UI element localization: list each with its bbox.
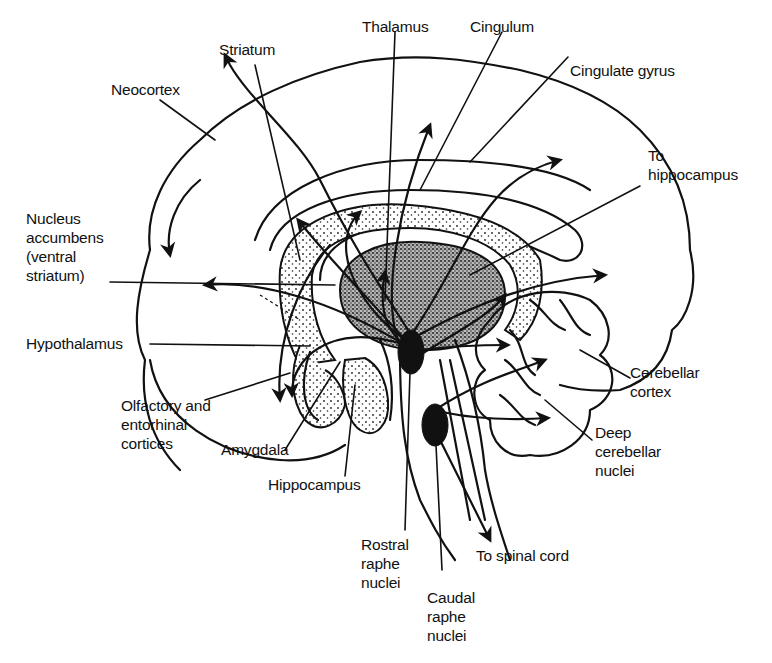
label-deep-cerebellar-nuclei: Deep cerebellar nuclei — [595, 423, 661, 480]
label-to-hippocampus: To hippocampus — [648, 146, 738, 184]
label-amygdala: Amygdala — [221, 440, 288, 459]
label-hippocampus: Hippocampus — [268, 475, 361, 494]
label-olfactory-entorhinal: Olfactory and entorhinal cortices — [121, 396, 211, 453]
label-rostral-raphe: Rostral raphe nuclei — [361, 535, 409, 592]
label-to-spinal-cord: To spinal cord — [476, 546, 569, 565]
label-striatum: Striatum — [219, 40, 275, 59]
label-cingulate-gyrus: Cingulate gyrus — [570, 61, 675, 80]
label-thalamus: Thalamus — [362, 17, 428, 36]
label-caudal-raphe: Caudal raphe nuclei — [427, 588, 475, 645]
amygdala-region — [343, 358, 388, 433]
label-hypothalamus: Hypothalamus — [26, 334, 123, 353]
label-neocortex: Neocortex — [111, 80, 180, 99]
label-nucleus-accumbens: Nucleus accumbens (ventral striatum) — [26, 209, 103, 285]
label-cingulum: Cingulum — [470, 17, 534, 36]
label-cerebellar-cortex: Cerebellar cortex — [630, 363, 700, 401]
